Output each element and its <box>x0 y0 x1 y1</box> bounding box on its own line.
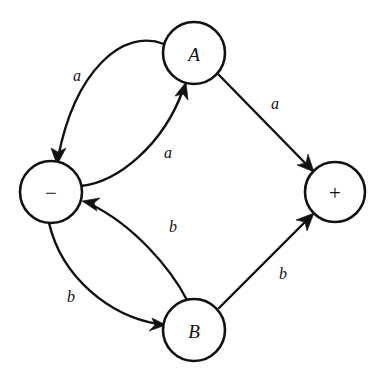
node-b[interactable]: B <box>163 299 225 361</box>
node-plus-label: + <box>329 181 341 205</box>
edge-minus-to-a-path <box>81 90 183 186</box>
node-plus[interactable]: + <box>305 162 365 222</box>
edge-b-to-plus[interactable]: b <box>219 213 314 308</box>
node-a[interactable]: A <box>163 22 225 84</box>
edge-minus-to-a-label: a <box>164 144 172 161</box>
edge-b-to-minus[interactable]: b <box>82 198 187 300</box>
edge-a-to-plus-path <box>217 73 308 166</box>
node-minus[interactable]: − <box>20 161 82 223</box>
edge-minus-to-b[interactable]: b <box>49 223 166 331</box>
edge-a-to-minus[interactable]: a <box>51 41 164 165</box>
edge-minus-to-b-path <box>49 223 158 324</box>
node-minus-label: − <box>45 181 57 205</box>
state-transition-graph: a a a b b b <box>0 0 387 378</box>
edge-b-to-minus-label: b <box>169 218 177 235</box>
node-b-label: B <box>188 321 200 342</box>
edge-a-to-plus[interactable]: a <box>217 73 314 172</box>
edge-b-to-plus-path <box>219 219 308 308</box>
diagram-canvas: a a a b b b <box>0 0 387 378</box>
edge-a-to-minus-path <box>58 41 164 158</box>
edge-a-to-minus-label: a <box>73 67 81 84</box>
edge-minus-to-a[interactable]: a <box>81 82 188 186</box>
edge-minus-to-a-arrowhead <box>175 82 188 100</box>
edge-a-to-plus-label: a <box>271 95 279 112</box>
edge-minus-to-b-label: b <box>67 288 75 305</box>
edge-b-to-plus-label: b <box>279 265 287 282</box>
node-a-label: A <box>186 44 200 65</box>
